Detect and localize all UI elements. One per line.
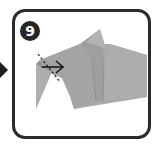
paper-rear-panel — [103, 44, 147, 101]
step-number-badge: 9 — [20, 21, 40, 41]
